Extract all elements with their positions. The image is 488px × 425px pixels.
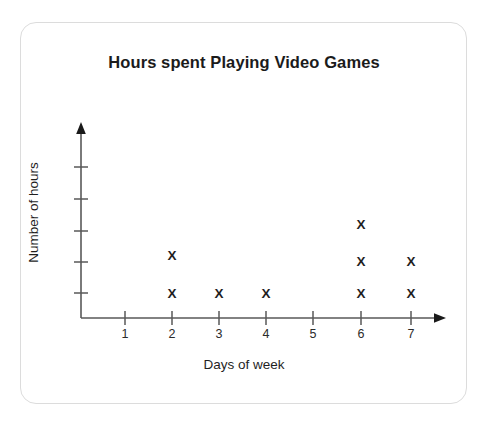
x-axis-arrowhead <box>434 313 446 323</box>
data-marker: X <box>401 287 421 301</box>
y-axis-label: Number of hours <box>26 133 41 293</box>
data-marker: X <box>351 218 371 232</box>
data-marker: X <box>401 255 421 269</box>
x-tick-label-2: 2 <box>160 327 184 341</box>
x-tick-label-4: 4 <box>254 327 278 341</box>
x-axis-label: Days of week <box>124 357 364 372</box>
x-tick-label-3: 3 <box>207 327 231 341</box>
data-marker: X <box>162 249 182 263</box>
data-marker: X <box>162 287 182 301</box>
data-marker: X <box>351 255 371 269</box>
data-marker: X <box>256 287 276 301</box>
screenshot-root: Hours spent Playing Video Games 1 2 3 4 … <box>0 0 488 425</box>
data-marker: X <box>209 287 229 301</box>
data-marker: X <box>351 287 371 301</box>
x-tick-label-1: 1 <box>113 327 137 341</box>
x-tick-label-5: 5 <box>301 327 325 341</box>
x-tick-label-6: 6 <box>349 327 373 341</box>
x-tick-label-7: 7 <box>399 327 423 341</box>
y-axis-arrowhead <box>76 122 86 134</box>
